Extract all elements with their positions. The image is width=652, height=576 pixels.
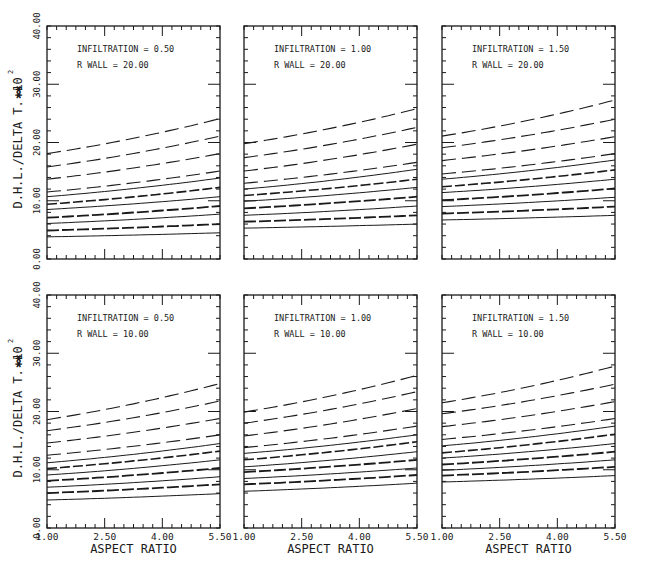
data-series-line <box>442 452 615 465</box>
data-series-line <box>442 426 615 446</box>
data-series-line <box>442 215 615 220</box>
x-tick-label: 4.00 <box>546 531 569 542</box>
data-series-line <box>244 109 417 144</box>
data-series-line <box>442 170 615 187</box>
data-series-line <box>442 100 615 136</box>
data-series-line <box>244 127 417 157</box>
data-series-line <box>442 366 615 403</box>
data-series-line <box>244 179 417 195</box>
chart-panel-2: INFILTRATION = 1.00R WALL = 20.00 <box>244 26 417 259</box>
x-tick-label: 4.00 <box>348 531 371 542</box>
data-series-line <box>244 375 417 412</box>
r-wall-label: R WALL = 20.00 <box>77 60 149 70</box>
y-tick-label: 10.00 <box>32 187 42 214</box>
y-tick-label: 40.00 <box>32 12 42 39</box>
data-series-line <box>244 224 417 228</box>
infiltration-label: INFILTRATION = 1.50 <box>472 313 569 323</box>
x-tick-label: 5.50 <box>604 531 627 542</box>
y-tick-label: 40.00 <box>32 281 42 308</box>
x-tick-label: 5.50 <box>209 531 232 542</box>
data-series-line <box>442 207 615 214</box>
data-series-line <box>47 119 220 154</box>
data-series-line <box>244 483 417 491</box>
data-series-line <box>244 452 417 467</box>
x-axis-title: ASPECT RATIO <box>485 542 572 556</box>
data-series-line <box>442 119 615 148</box>
x-axis-title: ASPECT RATIO <box>90 542 177 556</box>
r-wall-label: R WALL = 10.00 <box>77 329 149 339</box>
data-series-line <box>442 160 615 179</box>
y-tick-label: 20.00 <box>32 398 42 425</box>
r-wall-label: R WALL = 10.00 <box>472 329 544 339</box>
x-tick-label: 2.50 <box>290 531 313 542</box>
y-axis-exponent: 2 <box>7 70 15 74</box>
chart-figure: INFILTRATION = 0.50R WALL = 20.000.0010.… <box>0 0 652 576</box>
y-axis-exponent: 2 <box>7 339 15 343</box>
data-series-line <box>442 419 615 440</box>
x-tick-label: 2.50 <box>93 531 116 542</box>
chart-panel-4: INFILTRATION = 0.50R WALL = 10.000.0010.… <box>7 281 232 556</box>
infiltration-label: INFILTRATION = 1.50 <box>472 44 569 54</box>
data-series-line <box>47 451 220 469</box>
y-tick-label: 30.00 <box>32 340 42 367</box>
data-series-line <box>47 435 220 455</box>
data-series-line <box>244 169 417 189</box>
x-tick-label: 1.00 <box>36 531 59 542</box>
data-series-line <box>244 475 417 484</box>
data-series-line <box>47 419 220 444</box>
data-series-line <box>47 197 220 210</box>
r-wall-label: R WALL = 20.00 <box>472 60 544 70</box>
y-tick-label: 0.00 <box>32 248 42 270</box>
data-series-line <box>47 224 220 230</box>
data-series-line <box>442 476 615 482</box>
y-axis-multiplier: ✱10 <box>11 346 25 368</box>
data-series-line <box>47 384 220 420</box>
chart-panel-3: INFILTRATION = 1.50R WALL = 20.00 <box>442 26 615 259</box>
infiltration-label: INFILTRATION = 0.50 <box>77 313 174 323</box>
y-tick-label: 10.00 <box>32 456 42 483</box>
x-tick-label: 4.00 <box>151 531 174 542</box>
data-series-line <box>47 460 220 475</box>
data-series-line <box>47 136 220 167</box>
chart-panel-1: INFILTRATION = 0.50R WALL = 20.000.0010.… <box>7 12 220 269</box>
data-series-line <box>244 197 417 209</box>
data-series-line <box>244 435 417 454</box>
data-series-line <box>47 178 220 197</box>
y-tick-label: 30.00 <box>32 71 42 98</box>
chart-panel-5: INFILTRATION = 1.00R WALL = 10.001.002.5… <box>233 295 429 556</box>
data-series-line <box>244 144 417 171</box>
x-tick-label: 5.50 <box>406 531 429 542</box>
infiltration-label: INFILTRATION = 1.00 <box>274 313 371 323</box>
data-series-line <box>442 467 615 476</box>
y-tick-label: 20.00 <box>32 129 42 156</box>
data-series-line <box>47 494 220 500</box>
x-axis-title: ASPECT RATIO <box>287 542 374 556</box>
x-tick-label: 1.00 <box>431 531 454 542</box>
data-series-line <box>47 233 220 237</box>
data-series-line <box>442 179 615 192</box>
data-series-line <box>244 187 417 201</box>
data-series-line <box>47 477 220 488</box>
y-axis-title: D.H.L./DELTA T. ✱ <box>11 355 25 478</box>
data-series-line <box>244 215 417 221</box>
r-wall-label: R WALL = 10.00 <box>274 329 346 339</box>
infiltration-label: INFILTRATION = 1.00 <box>274 44 371 54</box>
y-axis-multiplier: ✱10 <box>11 77 25 99</box>
r-wall-label: R WALL = 20.00 <box>274 60 346 70</box>
y-axis-title: D.H.L./DELTA T. ✱ <box>11 86 25 209</box>
data-series-line <box>244 468 417 479</box>
data-series-line <box>442 460 615 471</box>
infiltration-label: INFILTRATION = 0.50 <box>77 44 174 54</box>
data-series-line <box>244 409 417 436</box>
x-tick-label: 2.50 <box>488 531 511 542</box>
x-tick-label: 1.00 <box>233 531 256 542</box>
chart-panel-6: INFILTRATION = 1.50R WALL = 10.001.002.5… <box>431 295 627 556</box>
